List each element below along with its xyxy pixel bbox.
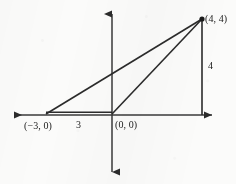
label-point-4-4: (4, 4) (205, 14, 227, 24)
label-point-origin: (0, 0) (115, 120, 137, 130)
segment-long-side (46, 19, 202, 114)
figure-container: (4, 4) (−3, 0) (0, 0) 3 4 (0, 0, 236, 184)
triangle-diagram (0, 0, 236, 184)
vertex-marker-point-44 (199, 16, 204, 21)
label-base-length: 3 (76, 120, 81, 130)
label-height-length: 4 (208, 61, 213, 71)
label-point-minus3-0: (−3, 0) (24, 121, 52, 131)
